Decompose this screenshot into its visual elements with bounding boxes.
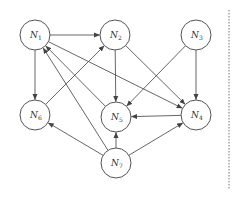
edge-n7-to-n4	[129, 123, 183, 155]
graph-canvas: N1N2N3N6N5N4N7	[0, 0, 236, 198]
edge-n2-to-n4	[126, 46, 185, 105]
node-n5: N5	[101, 102, 131, 132]
edge-n7-to-n6	[48, 123, 103, 155]
node-n4: N4	[181, 100, 211, 130]
edge-n4-to-n5	[132, 115, 182, 116]
node-n1: N1	[20, 20, 50, 50]
node-n3: N3	[181, 20, 211, 50]
node-n2: N2	[100, 20, 130, 50]
edges-layer	[35, 35, 196, 155]
node-n7: N7	[101, 148, 131, 178]
node-n6: N6	[20, 100, 50, 130]
edge-n2-to-n5	[115, 50, 116, 102]
